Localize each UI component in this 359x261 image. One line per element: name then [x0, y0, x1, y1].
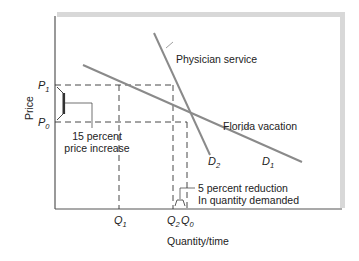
florida-vacation-label: Florida vacation — [223, 120, 297, 132]
frame-top — [57, 12, 345, 17]
x-axis-label: Quantity/time — [167, 235, 229, 247]
y-axis-label: Price — [23, 96, 35, 120]
physician-service-label: Physician service — [176, 53, 257, 65]
frame-right — [340, 12, 345, 208]
quantity-bracket — [175, 188, 195, 206]
q0-label: Q0 — [181, 214, 195, 229]
p0-label: P0 — [38, 116, 50, 131]
p1-label: P1 — [38, 79, 50, 94]
physician-leader — [166, 42, 173, 48]
q1-label: Q1 — [114, 214, 127, 229]
d1-label: D1 — [262, 155, 274, 170]
d2-label: D2 — [208, 155, 221, 170]
price-note-line1: 15 percent — [72, 130, 122, 142]
elasticity-diagram: Price P1 P0 Q1 Q2 Q0 D2 D1 Physician ser… — [0, 0, 359, 261]
qty-note-line1: 5 percent reduction — [198, 182, 288, 194]
demand-curve-d2-physician — [154, 33, 210, 155]
qty-note-line2: In quantity demanded — [198, 194, 299, 206]
price-note-line2: price increase — [64, 142, 130, 154]
q2-label: Q2 — [167, 214, 181, 229]
